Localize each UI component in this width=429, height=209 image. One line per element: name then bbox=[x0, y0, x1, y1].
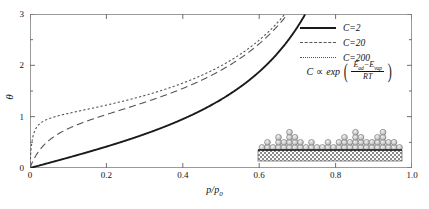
x-tick-label: 0.6 bbox=[254, 170, 265, 180]
adsorbate-spheres bbox=[259, 129, 402, 150]
legend-item: C=20 bbox=[300, 35, 408, 50]
legend-label: C=20 bbox=[343, 38, 365, 48]
legend-line-swatch bbox=[300, 57, 336, 58]
adsorbate-molecule bbox=[281, 139, 287, 145]
adsorbate-molecule bbox=[391, 139, 397, 145]
right-paren: ) bbox=[388, 60, 392, 82]
left-paren: ( bbox=[344, 60, 348, 82]
adsorbate-molecule bbox=[309, 139, 315, 145]
formula-c: C bbox=[307, 66, 314, 77]
adsorbate-molecule bbox=[325, 139, 331, 145]
x-tick-label: 0.2 bbox=[101, 170, 112, 180]
y-tick-label: 0 bbox=[8, 163, 24, 173]
energy-vap-subscript: vap bbox=[374, 64, 382, 70]
adsorbate-molecule bbox=[369, 139, 375, 145]
adsorbate-molecule bbox=[364, 139, 370, 145]
x-tick-label: 1.0 bbox=[406, 170, 417, 180]
x-axis-title: p/p0 bbox=[0, 184, 429, 198]
y-tick-label: 3 bbox=[8, 9, 24, 19]
adsorbate-molecule bbox=[347, 139, 353, 145]
curve-c-20 bbox=[30, 14, 288, 168]
legend: C=2C=20C=200 bbox=[300, 20, 408, 65]
y-axis-title: θ bbox=[3, 94, 15, 99]
substrate bbox=[258, 150, 402, 161]
multilayer-adsorption-inset bbox=[256, 96, 404, 166]
adsorbate-molecule bbox=[380, 129, 386, 135]
adsorbate-molecule bbox=[276, 134, 282, 140]
fraction-denominator: RT bbox=[361, 72, 374, 81]
x-axis-subscript: 0 bbox=[219, 190, 223, 198]
formula-annotation: C ∝ exp ( Ead−Evap RT ) bbox=[288, 60, 412, 82]
adsorbate-molecule bbox=[353, 129, 359, 135]
adsorbate-molecule bbox=[265, 139, 271, 145]
adsorbate-molecule bbox=[358, 134, 364, 140]
x-tick-label: 0 bbox=[28, 170, 33, 180]
bet-isotherm-figure: 0123 00.20.40.60.81.0 θ p/p0 C=2C=20C=20… bbox=[0, 0, 429, 209]
formula-fraction: Ead−Evap RT bbox=[351, 61, 384, 82]
y-tick-label: 2 bbox=[8, 60, 24, 70]
adsorbate-molecule bbox=[298, 139, 304, 145]
x-tick-label: 0.4 bbox=[177, 170, 188, 180]
fraction-numerator: Ead−Evap bbox=[351, 61, 384, 72]
adsorbate-molecule bbox=[287, 129, 293, 135]
curve-c-200 bbox=[30, 14, 285, 168]
x-tick-label: 0.8 bbox=[330, 170, 341, 180]
legend-line-swatch bbox=[300, 42, 336, 43]
legend-line-swatch bbox=[300, 27, 336, 29]
legend-label: C=2 bbox=[343, 23, 361, 33]
adsorbate-molecule bbox=[292, 134, 298, 140]
adsorbate-molecule bbox=[386, 139, 392, 145]
adsorbate-molecule bbox=[342, 134, 348, 140]
adsorbate-molecule bbox=[336, 139, 342, 145]
adsorbate-molecule bbox=[375, 134, 381, 140]
exp-function: exp bbox=[326, 66, 340, 77]
y-tick-label: 1 bbox=[8, 112, 24, 122]
legend-item: C=2 bbox=[300, 20, 408, 35]
proportional-symbol: ∝ bbox=[316, 66, 323, 77]
